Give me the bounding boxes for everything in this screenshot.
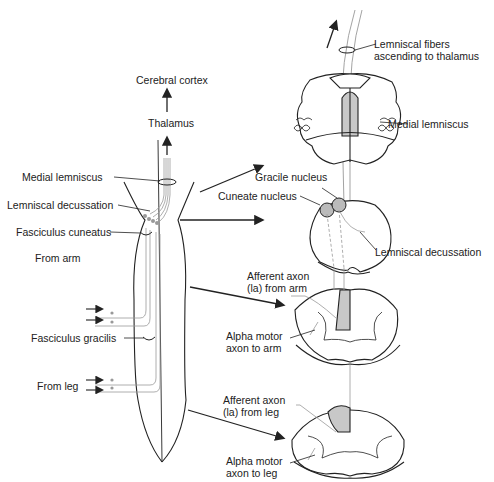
fiber-ring bbox=[339, 47, 355, 53]
input-arrows bbox=[86, 309, 102, 390]
label-fasciculus-cuneatus: Fasciculus cuneatus bbox=[16, 226, 111, 238]
label-from-leg: From leg bbox=[37, 380, 78, 392]
label-fasciculus-gracilis: Fasciculus gracilis bbox=[31, 332, 116, 344]
label-lemniscal-fibers: Lemniscal fibers ascending to thalamus bbox=[374, 38, 484, 62]
label-thalamus: Thalamus bbox=[148, 117, 194, 129]
label-cerebral-cortex: Cerebral cortex bbox=[136, 74, 208, 86]
lumbar-section bbox=[292, 406, 404, 478]
label-medial-lemniscus-right: Medial lemniscus bbox=[388, 118, 469, 130]
bundle-rings bbox=[140, 179, 176, 340]
label-lemniscal-decussation-left: Lemniscal decussation bbox=[7, 199, 113, 211]
label-lemniscal-decussation-right: Lemniscal decussation bbox=[375, 246, 481, 258]
label-afferent-leg: Afferent axon (la) from leg bbox=[223, 394, 298, 418]
spinal-cord-outline bbox=[124, 140, 194, 462]
label-cuneate-nucleus: Cuneate nucleus bbox=[218, 190, 297, 202]
label-from-arm: From arm bbox=[35, 252, 81, 264]
cervical-section bbox=[295, 289, 400, 365]
label-gracile-nucleus: Gracile nucleus bbox=[255, 171, 327, 183]
label-medial-lemniscus-left: Medial lemniscus bbox=[22, 171, 103, 183]
label-afferent-arm: Afferent axon (la) from arm bbox=[247, 270, 327, 294]
upper-brainstem-section bbox=[297, 74, 400, 164]
label-alpha-arm: Alpha motor axon to arm bbox=[226, 330, 296, 354]
label-alpha-leg: Alpha motor axon to leg bbox=[226, 455, 296, 479]
